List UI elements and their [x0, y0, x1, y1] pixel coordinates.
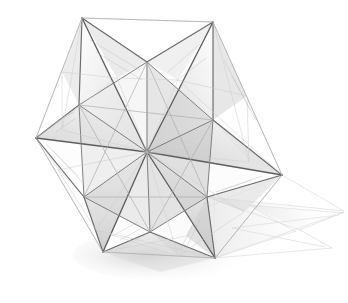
stellated-polyhedron-drawing	[0, 0, 348, 303]
drawing-canvas: Stellated Polyhedron Study graphite penc…	[0, 0, 348, 303]
